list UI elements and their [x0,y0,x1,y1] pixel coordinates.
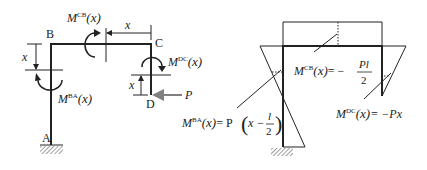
equation-m-dc: MDC(x)= −Px [335,106,403,121]
point-label-a: A [42,131,51,145]
bending-moment-diagram: MCB(x)= − Pl 2 MBA(x)= P ( x − l 2 ) MDC… [181,22,406,156]
svg-text:x −: x − [247,116,264,130]
bending-moment-figure: A B C D x MBA(x) x MCB(x) x MDC(x) [0,0,427,170]
moment-arrowhead-ba-icon [35,73,41,81]
svg-text:MBA(x)= P: MBA(x)= P [181,115,233,130]
point-label-d: D [146,97,155,111]
equation-m-ba: MBA(x)= P ( x − l 2 ) [181,110,282,137]
point-label-b: B [46,27,54,41]
moment-diagram-cb [283,22,382,46]
dim-label-ab: x [21,50,28,64]
moment-label-dc: MDC(x) [167,54,202,69]
svg-text:Pl: Pl [358,58,369,70]
frame-free-body-diagram: A B C D x MBA(x) x MCB(x) x MDC(x) [21,10,202,154]
moment-label-ba: MBA(x) [57,91,92,106]
moment-arrowhead-cb-icon [94,29,101,37]
dim-label-bc: x [124,18,131,32]
svg-text:2: 2 [361,74,367,86]
fixed-support-hatch-right [271,148,293,156]
svg-text:l: l [268,110,271,122]
dim-label-cd: x [128,78,135,92]
svg-text:): ) [275,111,282,136]
fixed-support-hatch [40,146,63,154]
point-label-c: C [155,36,163,50]
svg-text:MCB(x)= −: MCB(x)= − [293,63,345,78]
svg-text:2: 2 [266,125,272,137]
moment-arrowhead-dc-icon [158,66,166,72]
moment-label-cb: MCB(x) [66,10,101,25]
moment-diagram-dc [382,46,406,96]
equation-m-cb: MCB(x)= − Pl 2 [293,58,372,86]
svg-text:MDC(x)= −Px: MDC(x)= −Px [335,106,403,121]
load-label-p: P [184,88,193,102]
leader-line-cb [314,34,337,52]
leader-line-ba [237,70,281,108]
